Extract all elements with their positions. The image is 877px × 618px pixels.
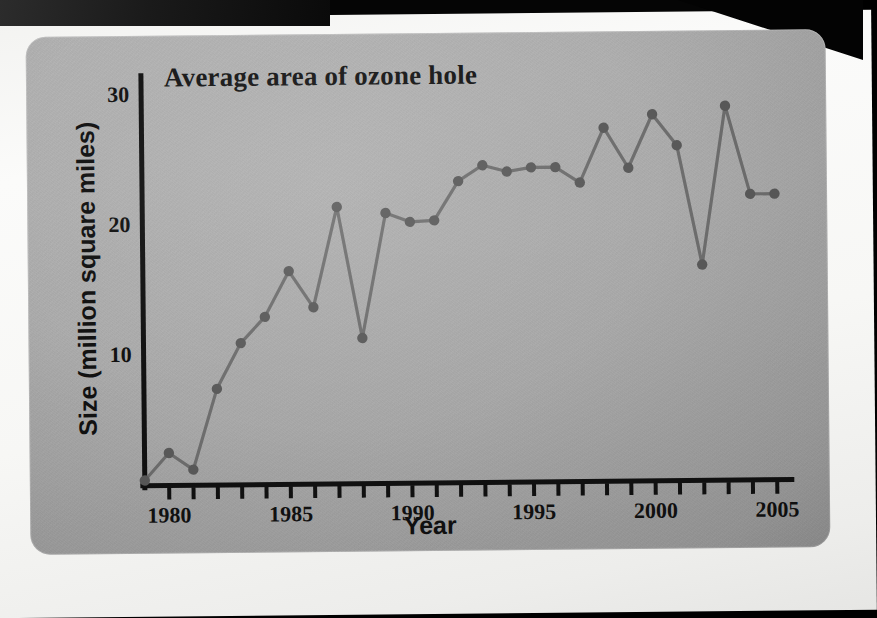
data-point-marker [647, 109, 657, 119]
chart-title: Average area of ozone hole [164, 60, 477, 94]
data-point-marker [550, 162, 560, 172]
data-point-marker [623, 163, 633, 173]
x-axis-line [143, 480, 792, 486]
data-point-marker [477, 160, 487, 170]
data-point-marker [697, 259, 707, 269]
data-point-marker [501, 166, 511, 176]
data-line [141, 105, 777, 480]
line-chart-plot [26, 29, 831, 555]
data-point-marker [380, 208, 390, 218]
y-axis-tick-label: 10 [87, 342, 131, 368]
x-axis-tick-label: 1995 [497, 499, 571, 526]
data-point-marker [332, 202, 342, 212]
y-axis-tick-label: 30 [85, 82, 129, 108]
x-axis-tick-label: 1990 [376, 500, 450, 527]
chart-panel: Average area of ozone hole Size (million… [26, 29, 831, 555]
data-point-marker [164, 448, 174, 458]
data-point-marker [429, 215, 439, 225]
data-point-marker [260, 312, 270, 322]
x-axis-tick-label: 1985 [254, 501, 328, 528]
data-point-marker [212, 384, 222, 394]
data-point-marker [745, 189, 755, 199]
data-point-marker [575, 177, 585, 187]
data-point-markers [136, 100, 782, 486]
x-axis-tick-label: 2005 [740, 496, 814, 523]
data-point-marker [283, 266, 293, 276]
data-point-marker [526, 162, 536, 172]
data-point-marker [769, 188, 779, 198]
y-axis-label: Size (million square miles) [71, 114, 103, 444]
y-axis-line [141, 76, 145, 488]
dark-background-left [0, 0, 330, 26]
data-point-marker [188, 464, 198, 474]
y-axis-tick-label: 20 [86, 212, 130, 238]
data-point-marker [357, 333, 367, 343]
data-point-marker [598, 122, 608, 132]
x-axis-tick-label: 2000 [619, 497, 693, 524]
data-point-marker [453, 176, 463, 186]
data-point-marker [671, 140, 681, 150]
data-point-marker [405, 217, 415, 227]
x-axis-tick-label: 1980 [132, 502, 206, 529]
data-point-marker [720, 100, 730, 110]
data-point-marker [236, 338, 246, 348]
data-point-marker [308, 302, 318, 312]
data-point-marker [140, 475, 150, 485]
